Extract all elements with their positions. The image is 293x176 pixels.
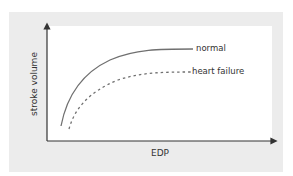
y-axis-label: stroke volume (29, 52, 39, 116)
normal-curve (61, 49, 193, 126)
x-axis-label: EDP (151, 148, 169, 158)
frank-starling-chart (0, 0, 293, 176)
heart-failure-label: heart failure (192, 66, 244, 76)
heart-failure-curve (69, 72, 193, 129)
normal-label: normal (196, 43, 226, 53)
